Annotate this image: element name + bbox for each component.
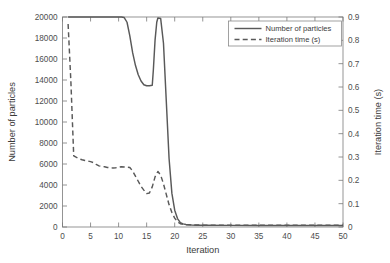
y-right-tick-label: 0.5 <box>348 106 360 115</box>
y-left-tick-label: 18000 <box>35 34 58 43</box>
x-tick-label: 5 <box>88 232 93 241</box>
y2-axis-title: Iteration time (s) <box>373 89 383 155</box>
y-left-tick-label: 8000 <box>39 139 58 148</box>
y-right-tick-label: 0.1 <box>348 200 360 209</box>
x-axis-title: Iteration <box>186 245 219 255</box>
x-tick-label: 35 <box>254 232 264 241</box>
x-tick-label: 15 <box>142 232 152 241</box>
y-left-tick-label: 0 <box>53 223 58 232</box>
x-tick-label: 50 <box>338 232 348 241</box>
legend-label-1: Number of particles <box>266 24 332 33</box>
y-right-tick-label: 0.4 <box>348 130 360 139</box>
x-tick-label: 45 <box>310 232 320 241</box>
y-left-tick-label: 16000 <box>35 55 58 64</box>
y-left-tick-label: 6000 <box>39 160 58 169</box>
y-right-tick-label: 0.7 <box>348 60 360 69</box>
y-left-tick-label: 10000 <box>35 118 58 127</box>
y-left-tick-label: 12000 <box>35 97 58 106</box>
legend-label-2: Iteration time (s) <box>266 35 321 44</box>
y-right-tick-label: 0.9 <box>348 13 360 22</box>
x-tick-label: 0 <box>60 232 65 241</box>
y-left-tick-label: 14000 <box>35 76 58 85</box>
dual-axis-line-chart: 0510152025303540455002000400060008000100… <box>0 0 390 263</box>
y-right-tick-label: 0 <box>348 223 353 232</box>
x-tick-label: 25 <box>198 232 208 241</box>
x-tick-label: 10 <box>114 232 124 241</box>
y-right-tick-label: 0.8 <box>348 36 360 45</box>
y-right-tick-label: 0.2 <box>348 176 360 185</box>
y-axis-title: Number of particles <box>7 82 17 162</box>
y-right-tick-label: 0.6 <box>348 83 360 92</box>
chart-figure: 0510152025303540455002000400060008000100… <box>0 0 390 263</box>
y-left-tick-label: 2000 <box>39 202 58 211</box>
x-tick-label: 30 <box>226 232 236 241</box>
x-tick-label: 20 <box>170 232 180 241</box>
y-left-tick-label: 4000 <box>39 181 58 190</box>
y-left-tick-label: 20000 <box>35 13 58 22</box>
x-tick-label: 40 <box>282 232 292 241</box>
y-right-tick-label: 0.3 <box>348 153 360 162</box>
